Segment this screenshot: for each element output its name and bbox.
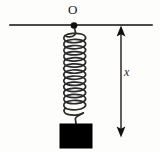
diagram-canvas (0, 0, 160, 152)
displacement-arrow (117, 26, 126, 138)
origin-label: O (68, 3, 77, 16)
displacement-label: x (124, 66, 129, 78)
hanging-mass-block (60, 124, 92, 148)
physics-spring-diagram: O x (0, 0, 160, 152)
anchor-dot (71, 22, 78, 29)
spring-coil (64, 33, 86, 115)
